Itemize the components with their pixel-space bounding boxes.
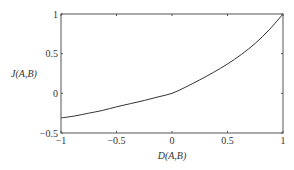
y-axis-label: J(A,B) [11, 68, 37, 80]
y-tick-label: 0.5 [46, 48, 59, 59]
axes-box [61, 14, 283, 133]
x-tick-label: −0.5 [107, 135, 125, 146]
y-tick-label: −0.5 [40, 128, 58, 139]
x-axis-label: D(A,B) [157, 150, 187, 162]
x-tick-label: 0.5 [221, 135, 234, 146]
x-axis-ticks: −1−0.500.51 [56, 14, 286, 146]
x-tick-label: 1 [281, 135, 286, 146]
y-axis-ticks: −0.500.51 [40, 9, 283, 139]
line-chart: −1−0.500.51 −0.500.51 D(A,B) J(A,B) [0, 0, 294, 170]
x-tick-label: 0 [170, 135, 175, 146]
y-tick-label: 1 [53, 9, 58, 20]
data-line [61, 14, 283, 118]
y-tick-label: 0 [53, 88, 58, 99]
